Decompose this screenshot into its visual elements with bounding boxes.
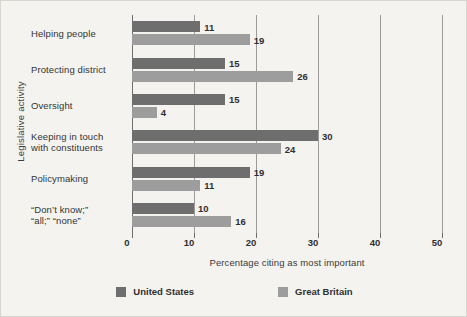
category-label-line: Keeping in touch [31, 131, 129, 142]
gridline-30 [318, 15, 319, 233]
category-label-1: Protecting district [31, 64, 129, 75]
tick-label-20: 20 [246, 237, 257, 248]
bar-gb-0 [132, 34, 250, 45]
bar-gb-1 [132, 71, 293, 82]
bar-row: 11 [132, 21, 442, 32]
category-label-line: Helping people [31, 28, 129, 39]
x-axis-title: Percentage citing as most important [132, 257, 442, 268]
bar-value-label: 19 [254, 34, 265, 45]
bar-row: 26 [132, 71, 442, 82]
bar-row: 11 [132, 180, 442, 191]
bar-value-label: 30 [322, 130, 333, 141]
category-label-line: Policymaking [31, 173, 129, 184]
tick-label-0: 0 [124, 237, 129, 248]
chart-legend: United StatesGreat Britain [1, 286, 467, 297]
tick-mark-0 [132, 233, 133, 238]
bar-row: 10 [132, 203, 442, 214]
bar-gb-2 [132, 107, 157, 118]
tick-label-50: 50 [432, 237, 443, 248]
bar-us-5 [132, 203, 194, 214]
gridline-50 [442, 15, 443, 233]
gridline-0 [132, 15, 133, 233]
category-label-line: with constituents [31, 142, 129, 153]
bar-row: 19 [132, 34, 442, 45]
bar-value-label: 24 [285, 143, 296, 154]
bar-row: 16 [132, 216, 442, 227]
legend-label: Great Britain [295, 286, 353, 297]
bar-us-0 [132, 21, 200, 32]
bar-us-1 [132, 58, 225, 69]
bar-value-label: 26 [297, 71, 308, 82]
x-axis-ticks: 01020304050 [132, 233, 442, 249]
bar-value-label: 4 [161, 107, 166, 118]
category-label-line: Protecting district [31, 64, 129, 75]
category-label-line: Oversight [31, 100, 129, 111]
bar-row: 24 [132, 143, 442, 154]
bar-value-label: 10 [198, 203, 209, 214]
gridline-20 [256, 15, 257, 233]
bar-value-label: 11 [204, 21, 214, 32]
bar-us-2 [132, 94, 225, 105]
y-axis-title: Legislative activity [9, 1, 31, 241]
gridline-10 [194, 15, 195, 233]
bar-value-label: 19 [254, 167, 265, 178]
bar-row: 15 [132, 58, 442, 69]
legend-label: United States [133, 286, 194, 297]
bar-chart-figure: Legislative activity Helping peopleProte… [0, 0, 467, 317]
bar-row: 4 [132, 107, 442, 118]
bar-value-label: 15 [229, 58, 240, 69]
legend-swatch-icon [116, 287, 126, 297]
bar-us-3 [132, 130, 318, 141]
bar-value-label: 16 [235, 216, 246, 227]
category-label-5: “Don’t know;”“all;” “none” [31, 204, 129, 226]
legend-swatch-icon [278, 287, 288, 297]
gridline-40 [380, 15, 381, 233]
y-axis-title-text: Legislative activity [15, 81, 26, 162]
tick-label-30: 30 [308, 237, 319, 248]
bar-gb-4 [132, 180, 200, 191]
legend-item-great-britain: Great Britain [278, 286, 353, 297]
bar-gb-3 [132, 143, 281, 154]
plot-area: 11151530191019264241116 [132, 15, 442, 233]
category-label-2: Oversight [31, 100, 129, 111]
bar-row: 30 [132, 130, 442, 141]
bar-value-label: 11 [204, 180, 214, 191]
bar-row: 15 [132, 94, 442, 105]
bar-us-4 [132, 167, 250, 178]
legend-item-united-states: United States [116, 286, 194, 297]
tick-label-40: 40 [370, 237, 381, 248]
bar-gb-5 [132, 216, 231, 227]
bar-row: 19 [132, 167, 442, 178]
category-label-4: Policymaking [31, 173, 129, 184]
category-label-3: Keeping in touchwith constituents [31, 131, 129, 153]
category-label-0: Helping people [31, 28, 129, 39]
category-label-column: Helping peopleProtecting districtOversig… [31, 15, 129, 233]
tick-label-10: 10 [184, 237, 195, 248]
bar-value-label: 15 [229, 94, 240, 105]
category-label-line: “Don’t know;” [31, 204, 129, 215]
category-label-line: “all;” “none” [31, 215, 129, 226]
